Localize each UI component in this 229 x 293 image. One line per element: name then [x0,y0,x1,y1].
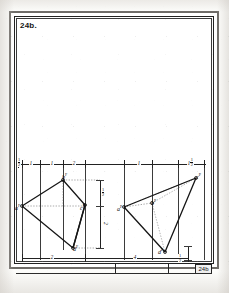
vertex-label-c-right: cP [196,172,201,180]
title-block-divider [115,263,116,274]
dim-tick [184,246,192,247]
bottom-dimension-line [22,258,188,259]
right-figure-triangle [0,0,229,293]
title-block [16,263,212,274]
title-block-tick [168,264,169,273]
vertex-label-b-right: bP [151,198,156,206]
dim-tick [188,254,189,262]
vertex-label-d-right: dP [158,247,163,255]
bottom-dim-value: 4 [133,253,137,260]
bottom-dim-value: 2 [50,253,54,260]
drawing-sheet: 24b. 12 1 1 2 1 112 [0,0,229,293]
title-block-number: 24b [195,264,212,274]
vertex-label-a-right: aP [117,204,122,212]
dim-tick [85,254,86,262]
dim-tick [22,254,23,262]
